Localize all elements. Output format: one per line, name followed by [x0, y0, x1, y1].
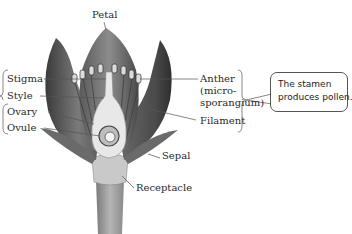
label-petal: Petal: [92, 9, 117, 21]
label-anther: Anther: [200, 73, 235, 85]
label-receptacle: Receptacle: [136, 182, 192, 194]
callout-line-1: The stamen: [278, 78, 347, 91]
callout-box: The stamen produces pollen.: [270, 72, 348, 112]
stem: [96, 180, 124, 234]
callout-line-2: produces pollen.: [278, 91, 347, 104]
label-sepal: Sepal: [162, 150, 190, 162]
label-filament: Filament: [200, 115, 245, 127]
label-anther-2: (micro-: [200, 85, 236, 97]
label-anther-3: sporangium): [200, 97, 264, 109]
label-ovary: Ovary: [7, 106, 37, 118]
flower-diagram: Petal Stigma Style Ovary Ovule Anther (m…: [0, 0, 352, 234]
flower-illustration: [0, 0, 352, 234]
label-stigma: Stigma: [7, 73, 43, 85]
receptacle: [92, 154, 128, 185]
label-style: Style: [7, 90, 33, 102]
label-ovule: Ovule: [7, 122, 36, 134]
